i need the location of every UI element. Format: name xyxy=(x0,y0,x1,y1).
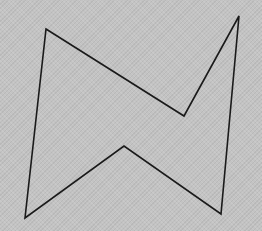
drawing-canvas xyxy=(0,0,262,231)
polygon-figure xyxy=(0,0,262,231)
polygon-outline xyxy=(25,16,239,218)
